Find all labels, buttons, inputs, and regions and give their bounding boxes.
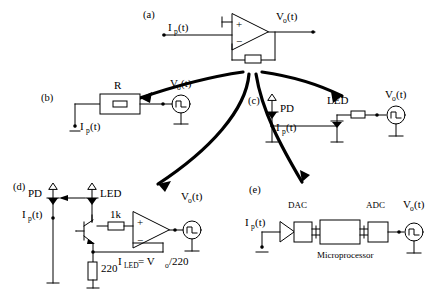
panel-d-led-light-arrow-icon — [88, 183, 96, 189]
panel-d-resistor-1k-label: 1k — [110, 208, 122, 220]
arrow-to-panel-b-head — [140, 92, 152, 103]
panel-d-ip-tail: (t) — [32, 208, 43, 221]
panel-d-ip-label: I — [22, 208, 26, 220]
circuit-diagram: (a) I p (t) + − V o (t) (b) I p (t) R — [0, 0, 435, 296]
panel-e-id: (e) — [249, 184, 261, 196]
panel-d-vo-tail: (t) — [192, 190, 203, 203]
panel-d-equation-main: I — [118, 255, 122, 267]
panel-c-led-triangle — [332, 122, 342, 128]
panel-a-opamp-plus: + — [236, 18, 242, 30]
panel-e-dac-label: DAC — [288, 200, 307, 210]
panel-c-light-arrow-icon — [268, 94, 276, 100]
panel-d-equation-sub: LED — [124, 261, 139, 270]
panel-d-led-triangle — [87, 198, 97, 205]
panel-e-ip-tail: (t) — [255, 216, 266, 229]
panel-b-output-node — [161, 102, 165, 106]
panel-c-ip-tail: (t) — [286, 121, 297, 134]
panel-e-dac-triangle — [280, 222, 294, 242]
panel-e-input-node — [260, 245, 264, 249]
panel-d-meter-glyph-icon — [187, 227, 197, 233]
panel-e-dac-box — [294, 222, 312, 242]
panel-c-vo-tail: (t) — [396, 88, 407, 101]
arrow-to-panel-d-curve — [158, 74, 249, 184]
panel-e-vo-tail: (t) — [414, 198, 425, 211]
panel-d-opamp-minus: − — [137, 234, 143, 246]
panel-e-microprocessor-box — [320, 220, 360, 244]
panel-b-resistor-inner — [113, 101, 127, 107]
panel-b-vo-tail: (t) — [181, 77, 192, 90]
panel-a-opamp-minus: − — [236, 35, 242, 47]
panel-c-ip-label: I — [276, 121, 280, 133]
arrow-to-panel-b-curve — [140, 72, 243, 98]
panel-c-resistor — [351, 111, 365, 118]
panel-d-pd-label: PD — [28, 187, 42, 199]
panel-d-resistor-220-box — [88, 262, 97, 280]
arrow-to-panel-c-curve — [262, 72, 342, 96]
panel-c-pd-label: PD — [280, 102, 294, 114]
panel-d-output-node — [173, 228, 177, 232]
panel-d-opamp-plus: + — [137, 216, 143, 228]
panel-e-adc-label: ADC — [366, 200, 385, 210]
panel-a-vo-tail: (t) — [287, 10, 298, 23]
panel-d-led-label: LED — [100, 187, 121, 199]
panel-d-pd-light-arrow-icon — [49, 183, 57, 189]
panel-e-meter-glyph-icon — [409, 229, 419, 235]
panel-e-ip-label: I — [245, 216, 249, 228]
panel-d-transistor-arrow-icon — [87, 239, 95, 244]
panel-a-feedback-element — [245, 55, 261, 63]
panel-c-id: (c) — [248, 95, 260, 107]
panel-b-ip-label: I — [80, 120, 84, 132]
panel-d-equation-tail: /220 — [169, 255, 189, 267]
panel-d-pd-triangle — [48, 198, 58, 205]
panel-d-equation-rest: = V — [138, 255, 155, 267]
panel-a-ip-label: I — [168, 21, 172, 33]
panel-c-meter-glyph-icon — [391, 112, 401, 118]
panel-b-meter-glyph-icon — [176, 101, 186, 107]
panel-e-adc-box — [368, 222, 388, 242]
panel-b-ip-tail: (t) — [90, 120, 101, 133]
panel-d-ip-node — [51, 216, 55, 220]
panel-a-output-node — [311, 30, 315, 34]
panel-a-ip-tail: (t) — [178, 21, 189, 34]
figure-canvas: (a) I p (t) + − V o (t) (b) I p (t) R — [0, 0, 435, 296]
panel-b-resistor-label: R — [114, 79, 122, 91]
panel-e-output-node — [397, 230, 401, 234]
panel-b-input-node — [73, 124, 77, 128]
panel-d-id: (d) — [13, 181, 26, 193]
panel-c-led-label: LED — [327, 94, 348, 106]
panel-a-id: (a) — [143, 9, 155, 21]
panel-d-coupling-arrow-icon — [59, 195, 68, 201]
panel-a-input-node — [162, 33, 166, 37]
panel-d-resistor-1k-box — [108, 222, 124, 230]
panel-d-resistor-220-label: 220 — [101, 262, 118, 274]
panel-b-id: (b) — [41, 92, 54, 104]
panel-e-microprocessor-label: Microprocessor — [317, 250, 373, 260]
